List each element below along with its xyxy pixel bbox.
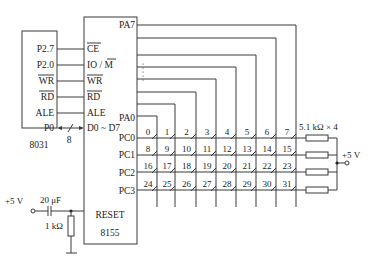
reset-resistor-label: 1 kΩ (45, 221, 63, 231)
pullup-label: 5.1 kΩ × 4 (299, 122, 338, 132)
pullup-junction (335, 161, 338, 164)
pin-pc2: PC2 (119, 168, 136, 178)
pin-p27: P2.7 (37, 44, 54, 54)
key-label-19: 19 (203, 161, 213, 171)
key-label-0: 0 (146, 127, 151, 137)
key-label-15: 15 (283, 144, 293, 154)
key-label-1: 1 (165, 127, 170, 137)
pin-io-m: IO / M (87, 60, 113, 70)
key-label-8: 8 (146, 144, 151, 154)
pin-p20: P2.0 (37, 60, 54, 70)
key-label-27: 27 (203, 179, 213, 189)
key-label-10: 10 (182, 144, 192, 154)
pullup-resistor-0 (306, 135, 328, 141)
key-label-3: 3 (205, 127, 210, 137)
key-label-20: 20 (223, 161, 233, 171)
pullup-resistor-3 (306, 187, 328, 193)
bus-arrow-left (57, 126, 62, 130)
key-label-22: 22 (263, 161, 272, 171)
pin-pa0: PA0 (119, 113, 135, 123)
key-label-18: 18 (182, 161, 192, 171)
pullup-supply-label: +5 V (342, 150, 361, 160)
key-label-7: 7 (285, 127, 290, 137)
pullup-resistor-2 (306, 169, 328, 175)
pin-pc3: PC3 (119, 186, 136, 196)
key-label-11: 11 (203, 144, 212, 154)
reset-resistor (68, 216, 74, 236)
key-label-21: 21 (243, 161, 252, 171)
pin-ale-mcu: ALE (36, 108, 55, 118)
reset-label: RESET (95, 210, 124, 220)
key-label-31: 31 (283, 179, 292, 189)
io-chip-name: 8155 (101, 228, 120, 238)
pullup-terminal-icon (345, 161, 349, 165)
key-label-25: 25 (163, 179, 173, 189)
key-label-24: 24 (144, 179, 154, 189)
supply-terminal-icon (31, 209, 35, 213)
keyboard-interface-schematic: P2.7 P2.0 WR RD ALE P0 8031 8 CE IO / M … (0, 0, 372, 266)
key-label-30: 30 (263, 179, 273, 189)
reset-supply-label: +5 V (5, 196, 24, 206)
key-label-9: 9 (165, 144, 170, 154)
pin-pc1: PC1 (119, 150, 136, 160)
key-label-26: 26 (182, 179, 192, 189)
reset-circuit: +5 V 20 μF 1 kΩ (5, 195, 84, 253)
key-label-23: 23 (283, 161, 293, 171)
pin-pa7: PA7 (119, 20, 135, 30)
pin-ale-io: ALE (87, 108, 106, 118)
key-label-6: 6 (265, 127, 270, 137)
key-label-13: 13 (243, 144, 253, 154)
key-matrix: 0123456789101112131415161718192021222324… (137, 25, 349, 207)
key-label-5: 5 (245, 127, 250, 137)
control-wires (57, 49, 84, 132)
key-label-12: 12 (223, 144, 232, 154)
pin-wr-mcu: WR (39, 76, 55, 86)
pullup-resistor-1 (306, 152, 328, 158)
bus-width-label: 8 (67, 135, 72, 145)
key-label-29: 29 (243, 179, 253, 189)
key-label-14: 14 (263, 144, 273, 154)
pin-d0-d7: D0 ~ D7 (87, 123, 120, 133)
pin-wr-io: WR (87, 76, 103, 86)
pin-rd-mcu: RD (41, 92, 54, 102)
key-label-4: 4 (225, 127, 230, 137)
key-label-2: 2 (184, 127, 189, 137)
pin-pc0: PC0 (119, 133, 136, 143)
key-label-28: 28 (223, 179, 233, 189)
pin-rd-io: RD (87, 92, 100, 102)
key-label-17: 17 (163, 161, 173, 171)
capacitor-label: 20 μF (40, 195, 61, 205)
mcu-name: 8031 (30, 140, 49, 150)
pin-p0: P0 (44, 123, 54, 133)
bus-arrow-right (79, 126, 84, 130)
pin-ce: CE (87, 44, 99, 54)
key-label-16: 16 (144, 161, 154, 171)
pa-ellipsis (142, 63, 143, 80)
